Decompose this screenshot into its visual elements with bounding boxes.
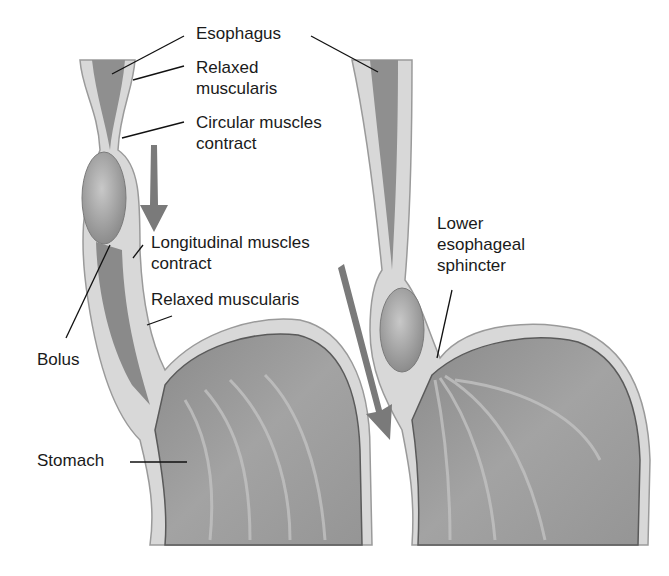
label-relaxed-muscularis-bottom: Relaxed muscularis (151, 290, 299, 310)
right-panel (338, 60, 650, 545)
right-stomach (412, 338, 640, 545)
peristalsis-diagram (0, 0, 669, 576)
label-les-line1: Lower (437, 214, 483, 234)
label-longitudinal-muscles-line1: Longitudinal muscles (151, 233, 310, 253)
label-circular-muscles-line2: contract (196, 134, 256, 154)
label-les-line2: esophageal (437, 235, 525, 255)
label-stomach: Stomach (37, 451, 104, 471)
down-arrow-icon (140, 145, 168, 232)
right-bolus (380, 288, 424, 372)
left-bolus (82, 152, 126, 244)
label-longitudinal-muscles-line2: contract (151, 254, 211, 274)
left-stomach (155, 334, 362, 545)
label-relaxed-muscularis-top-line2: muscularis (196, 79, 277, 99)
label-circular-muscles-line1: Circular muscles (196, 113, 322, 133)
label-esophagus: Esophagus (196, 24, 281, 44)
label-les-line3: sphincter (437, 256, 506, 276)
label-bolus: Bolus (37, 350, 80, 370)
label-relaxed-muscularis-top-line1: Relaxed (196, 58, 258, 78)
